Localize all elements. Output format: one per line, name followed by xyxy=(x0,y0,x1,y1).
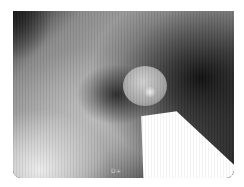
endoscopic-image-frame: D+ xyxy=(13,11,234,178)
overlay-label: D+ xyxy=(111,167,122,174)
scanline-texture xyxy=(13,11,234,178)
